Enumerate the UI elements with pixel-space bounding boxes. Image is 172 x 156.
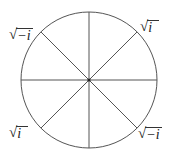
- radicand: i: [147, 20, 159, 34]
- radicand: −i: [145, 127, 161, 141]
- label-bottom-left: √i: [9, 125, 28, 141]
- radicand: i: [16, 126, 28, 140]
- label-top-right: √i: [140, 19, 159, 35]
- label-bottom-right: √−i: [138, 126, 162, 142]
- label-top-left: √−i: [9, 27, 33, 43]
- radicand: −i: [16, 28, 32, 42]
- center-dot: [87, 78, 90, 81]
